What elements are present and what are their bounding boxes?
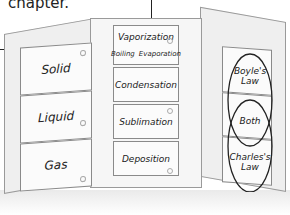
- hole-icon: [167, 168, 173, 174]
- tab-label: Deposition: [122, 154, 170, 164]
- tab-condensation[interactable]: Condensation: [113, 67, 179, 102]
- hole-icon: [167, 108, 173, 114]
- middle-tabs: Vaporization Boiling Evaporation Condens…: [113, 25, 179, 178]
- venn-label-boyles: Boyle's Law: [224, 66, 276, 86]
- hole-icon: [167, 38, 173, 44]
- tab-label: Vaporization: [118, 32, 174, 42]
- hole-icon: [80, 50, 86, 56]
- hole-icon: [80, 120, 86, 126]
- tab-label: Condensation: [115, 80, 177, 90]
- vaporization-sub: Boiling Evaporation: [111, 50, 181, 58]
- tab-vaporization[interactable]: Vaporization Boiling Evaporation: [113, 25, 179, 65]
- tab-sublimation[interactable]: Sublimation: [113, 104, 179, 139]
- tab-solid[interactable]: Solid: [20, 42, 92, 95]
- venn-label-both: Both: [224, 116, 276, 126]
- tab-label: Gas: [45, 157, 68, 173]
- tab-deposition[interactable]: Deposition: [113, 141, 179, 176]
- tab-label: Liquid: [38, 109, 74, 126]
- venn-label-charles: Charles's Law: [224, 152, 276, 172]
- caption-text: chapter.: [8, 0, 69, 12]
- sub-label-boiling: Boiling: [111, 50, 135, 58]
- tab-liquid[interactable]: Liquid: [20, 90, 92, 143]
- sub-label-evaporation: Evaporation: [139, 50, 181, 58]
- table-shadow: [0, 190, 290, 215]
- tab-gas[interactable]: Gas: [20, 138, 92, 191]
- hole-icon: [80, 176, 86, 182]
- tab-label: Solid: [41, 61, 70, 77]
- left-tabs: Solid Liquid Gas: [20, 42, 92, 191]
- tab-label: Sublimation: [119, 117, 173, 127]
